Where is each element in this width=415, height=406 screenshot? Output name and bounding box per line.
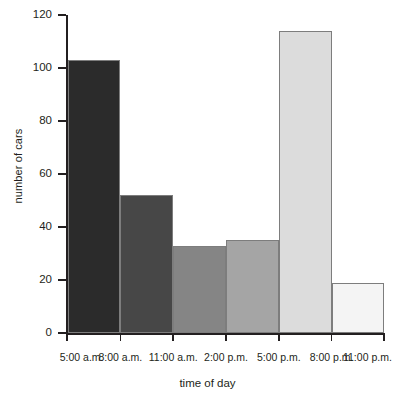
- bar[interactable]: [279, 31, 332, 333]
- x-axis-title: time of day: [0, 377, 415, 389]
- x-axis-tick-label: 2:00 p.m.: [204, 351, 248, 364]
- x-axis-tick-mark: [331, 333, 333, 341]
- y-axis-tick-mark: [58, 226, 66, 228]
- y-axis-tick-mark: [58, 332, 66, 334]
- y-axis-tick-label: 20: [18, 274, 52, 286]
- y-axis-tick-label: 40: [18, 221, 52, 233]
- x-axis-tick-mark: [172, 333, 174, 341]
- x-axis-tick-mark: [120, 333, 122, 341]
- bar[interactable]: [332, 283, 385, 333]
- x-axis-tick-mark: [67, 333, 69, 341]
- bar[interactable]: [68, 60, 121, 333]
- x-axis-tick-label: 5:00 p.m.: [257, 351, 301, 364]
- y-axis-tick-mark: [58, 67, 66, 69]
- y-axis-tick-mark: [58, 279, 66, 281]
- bar[interactable]: [173, 246, 226, 333]
- y-axis-tick-label: 60: [18, 168, 52, 180]
- x-axis-tick-mark: [278, 333, 280, 341]
- x-axis-tick-label: 11:00 p.m.: [343, 351, 392, 364]
- plot-area: [68, 15, 385, 333]
- y-axis-tick-label: 100: [18, 62, 52, 74]
- x-axis-tick-mark: [384, 333, 386, 341]
- y-axis-tick-mark: [58, 14, 66, 16]
- y-axis-tick-labels: 020406080100120: [18, 0, 52, 406]
- bar[interactable]: [226, 240, 279, 333]
- bar[interactable]: [120, 195, 173, 333]
- bar-chart: number of cars 020406080100120 5:00 a.m.…: [0, 0, 415, 406]
- y-axis-tick-label: 120: [18, 9, 52, 21]
- x-axis-tick-labels: 5:00 a.m.8:00 a.m.11:00 a.m.2:00 p.m.5:0…: [0, 351, 415, 369]
- y-axis-tick-mark: [58, 173, 66, 175]
- x-axis-tick-label: 5:00 a.m.: [60, 351, 104, 364]
- x-axis-tick-label: 11:00 a.m.: [149, 351, 198, 364]
- y-axis-tick-mark: [58, 120, 66, 122]
- y-axis-tick-label: 0: [18, 327, 52, 339]
- y-axis-tick-label: 80: [18, 115, 52, 127]
- x-axis-tick-mark: [225, 333, 227, 341]
- x-axis-tick-label: 8:00 a.m.: [99, 351, 143, 364]
